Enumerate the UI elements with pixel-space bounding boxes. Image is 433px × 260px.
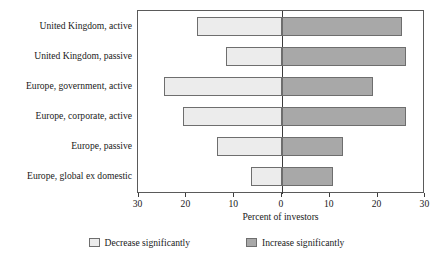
x-axis-tick-label: 30: [123, 198, 153, 209]
category-label: Europe, government, active: [0, 80, 132, 91]
x-axis-tick-label: 30: [409, 198, 433, 209]
chart-legend: Decrease significantly Increase signific…: [0, 233, 433, 251]
category-label: United Kingdom, passive: [0, 50, 132, 61]
bar-increase: [282, 17, 402, 36]
x-axis-tick-label: 0: [266, 198, 296, 209]
bar-decrease: [226, 47, 282, 66]
bar-decrease: [164, 77, 282, 96]
category-label: Europe, global ex domestic: [0, 170, 132, 181]
category-label: United Kingdom, active: [0, 20, 132, 31]
x-axis-tick-label: 20: [362, 198, 392, 209]
legend-item-increase: Increase significantly: [246, 237, 344, 248]
x-axis-tick: [377, 193, 378, 197]
bar-increase: [282, 107, 406, 126]
bar-increase: [282, 47, 406, 66]
x-axis-tick: [424, 193, 425, 197]
x-axis-tick: [233, 193, 234, 197]
category-axis-labels: United Kingdom, activeUnited Kingdom, pa…: [0, 10, 132, 193]
plot-area: [137, 10, 424, 193]
x-axis-tick: [329, 193, 330, 197]
bar-increase: [282, 77, 373, 96]
category-label: Europe, passive: [0, 140, 132, 151]
x-axis-tick: [281, 193, 282, 197]
x-axis-tick-label: 20: [170, 198, 200, 209]
x-axis-tick: [185, 193, 186, 197]
x-axis-title: Percent of investors: [137, 211, 424, 223]
dark-gray-swatch-icon: [246, 238, 257, 247]
bar-decrease: [183, 107, 282, 126]
bar-increase: [282, 137, 343, 156]
legend-label-decrease: Decrease significantly: [105, 237, 191, 248]
bar-decrease: [251, 167, 282, 186]
x-axis-tick: [138, 193, 139, 197]
x-axis-tick-label: 10: [218, 198, 248, 209]
category-label: Europe, corporate, active: [0, 110, 132, 121]
x-axis: 3020100102030: [137, 193, 424, 194]
legend-label-increase: Increase significantly: [262, 237, 344, 248]
x-axis-tick-label: 10: [314, 198, 344, 209]
diverging-bar-chart: United Kingdom, activeUnited Kingdom, pa…: [0, 0, 433, 260]
bar-increase: [282, 167, 333, 186]
bar-decrease: [197, 17, 282, 36]
light-gray-swatch-icon: [89, 238, 100, 247]
legend-item-decrease: Decrease significantly: [89, 237, 191, 248]
bar-decrease: [217, 137, 282, 156]
